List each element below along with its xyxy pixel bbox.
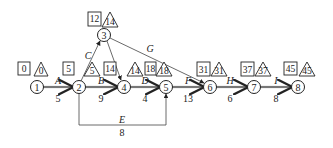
node-1-label: 1 <box>35 82 40 93</box>
activity-i-label: I <box>273 75 278 86</box>
activity-e-duration: 8 <box>120 127 125 138</box>
network-diagram: A 5 B 9 C D 4 E 8 F 13 G H 6 I 8 0 0 5 5… <box>0 0 333 148</box>
nodes: 1 2 3 4 5 6 7 8 <box>31 29 305 94</box>
node-4-latest-value: 14 <box>130 66 140 76</box>
node-4: 4 <box>118 81 131 94</box>
node-5-latest-value: 18 <box>159 66 169 76</box>
activity-g-label: G <box>146 43 153 54</box>
activity-i-duration: 8 <box>274 93 279 104</box>
node-8-earliest-value: 45 <box>286 64 296 74</box>
activity-d-label: D <box>140 75 149 86</box>
node-3-earliest-value: 12 <box>90 14 100 24</box>
node-1-earliest-value: 0 <box>22 64 27 74</box>
time-annotations: 0 0 5 5 12 14 14 14 18 18 31 31 37 37 <box>18 12 315 76</box>
activity-h-duration: 6 <box>228 93 233 104</box>
activity-f-duration: 13 <box>183 93 193 104</box>
node-2-latest-value: 5 <box>90 66 95 76</box>
node-3-label: 3 <box>102 30 107 41</box>
node-6-label: 6 <box>208 82 213 93</box>
node-1-latest-value: 0 <box>39 66 44 76</box>
node-1: 1 <box>31 81 44 94</box>
activity-d-duration: 4 <box>143 93 148 104</box>
activity-f-label: F <box>184 75 192 86</box>
node-8-label: 8 <box>296 82 301 93</box>
node-6-earliest-value: 31 <box>199 65 209 75</box>
node-5-earliest-value: 18 <box>146 64 156 74</box>
node-6: 6 <box>204 81 217 94</box>
activity-a-label: A <box>54 75 62 86</box>
activity-b-duration: 9 <box>99 93 104 104</box>
node-6-latest-value: 31 <box>214 66 224 76</box>
node-4-label: 4 <box>122 82 127 93</box>
activity-c-label: C <box>85 50 92 61</box>
node-7-earliest-value: 37 <box>243 65 253 75</box>
node-5: 5 <box>160 81 173 94</box>
node-2-earliest-value: 5 <box>66 64 71 74</box>
node-4-earliest-value: 14 <box>105 64 115 74</box>
node-3-latest-value: 14 <box>105 17 115 27</box>
node-5-label: 5 <box>164 82 169 93</box>
activity-b-label: B <box>98 75 104 86</box>
node-2: 2 <box>73 81 86 94</box>
node-7: 7 <box>248 81 261 94</box>
node-3: 3 <box>98 29 111 42</box>
activity-e-label: E <box>118 114 125 125</box>
node-7-latest-value: 37 <box>258 66 268 76</box>
node-7-label: 7 <box>252 82 257 93</box>
activity-h-label: H <box>225 75 234 86</box>
node-8-latest-value: 45 <box>302 66 312 76</box>
node-2-label: 2 <box>77 82 82 93</box>
activity-a-duration: 5 <box>56 93 61 104</box>
node-8: 8 <box>292 81 305 94</box>
